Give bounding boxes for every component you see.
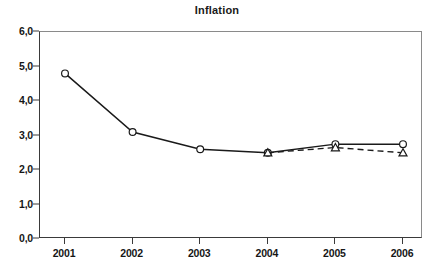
x-axis-labels: 200120022003200420052006 bbox=[39, 247, 422, 263]
x-axis-tick-label: 2002 bbox=[120, 247, 143, 259]
inflation-chart: Inflation 0,01,02,03,04,05,06,0 20012002… bbox=[0, 0, 434, 265]
x-axis-tick-mark bbox=[132, 238, 133, 244]
data-point-marker bbox=[400, 141, 407, 148]
plot-svg bbox=[40, 32, 423, 239]
y-axis-tick-label: 2,0 bbox=[19, 163, 33, 175]
y-axis-tick-mark bbox=[33, 203, 39, 204]
y-axis-tick-mark bbox=[33, 238, 39, 239]
x-axis-tick-label: 2004 bbox=[256, 247, 279, 259]
x-axis-tick-mark bbox=[334, 238, 335, 244]
x-axis-ticks bbox=[39, 238, 422, 245]
x-axis-tick-label: 2005 bbox=[323, 247, 346, 259]
series-layer bbox=[62, 70, 407, 156]
series-line-series-solid-circle bbox=[65, 73, 403, 152]
data-point-marker bbox=[129, 129, 136, 136]
x-axis-tick-mark bbox=[64, 238, 65, 244]
y-axis-labels: 0,01,02,03,04,05,06,0 bbox=[0, 31, 33, 238]
y-axis-tick-label: 3,0 bbox=[19, 129, 33, 141]
x-axis-tick-label: 2003 bbox=[188, 247, 211, 259]
y-axis-tick-mark bbox=[33, 169, 39, 170]
data-point-marker bbox=[62, 70, 69, 77]
y-axis-tick-label: 4,0 bbox=[19, 94, 33, 106]
data-point-marker bbox=[197, 146, 204, 153]
y-axis-tick-label: 6,0 bbox=[19, 25, 33, 37]
x-axis-tick-label: 2006 bbox=[391, 247, 414, 259]
x-axis-tick-mark bbox=[267, 238, 268, 244]
x-axis-tick-mark bbox=[402, 238, 403, 244]
y-axis-tick-mark bbox=[33, 65, 39, 66]
y-axis-tick-mark bbox=[33, 134, 39, 135]
y-axis-tick-label: 1,0 bbox=[19, 198, 33, 210]
plot-area bbox=[39, 31, 422, 238]
x-axis-tick-mark bbox=[199, 238, 200, 244]
x-axis-tick-label: 2001 bbox=[53, 247, 76, 259]
y-axis-tick-mark bbox=[33, 100, 39, 101]
chart-title: Inflation bbox=[0, 4, 434, 16]
y-axis-tick-mark bbox=[33, 31, 39, 32]
y-axis-tick-label: 5,0 bbox=[19, 60, 33, 72]
y-axis-tick-label: 0,0 bbox=[19, 232, 33, 244]
